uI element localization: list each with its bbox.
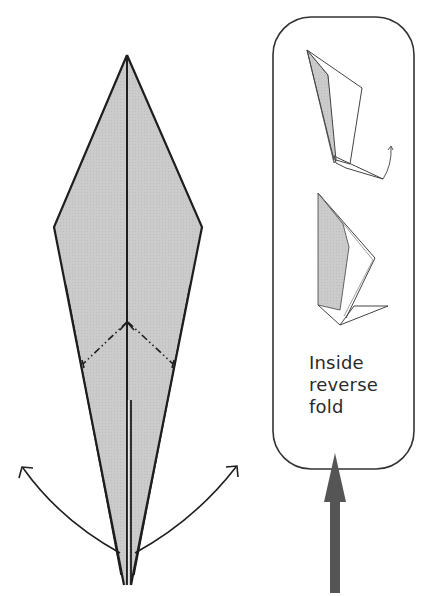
callout-label-line-1: Inside: [309, 352, 378, 374]
kite-right-half: [127, 55, 202, 585]
main-kite-figure: [19, 55, 238, 585]
callout-label-line-2: reverse: [309, 374, 378, 396]
kite-left-half: [54, 55, 127, 585]
callout-label: Inside reverse fold: [309, 352, 378, 418]
callout-label-line-3: fold: [309, 396, 378, 418]
origami-diagram: [0, 0, 438, 596]
pointer-arrow-up: [324, 453, 346, 593]
